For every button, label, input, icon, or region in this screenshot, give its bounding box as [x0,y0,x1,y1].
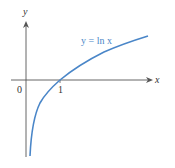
origin-label: 0 [17,85,22,95]
tick-label-1: 1 [58,85,63,95]
x-axis-label: x [155,75,159,85]
curve-label: y = ln x [81,36,112,46]
y-axis-label: y [23,7,27,17]
ln-graph [0,0,175,168]
ln-curve [30,36,148,156]
